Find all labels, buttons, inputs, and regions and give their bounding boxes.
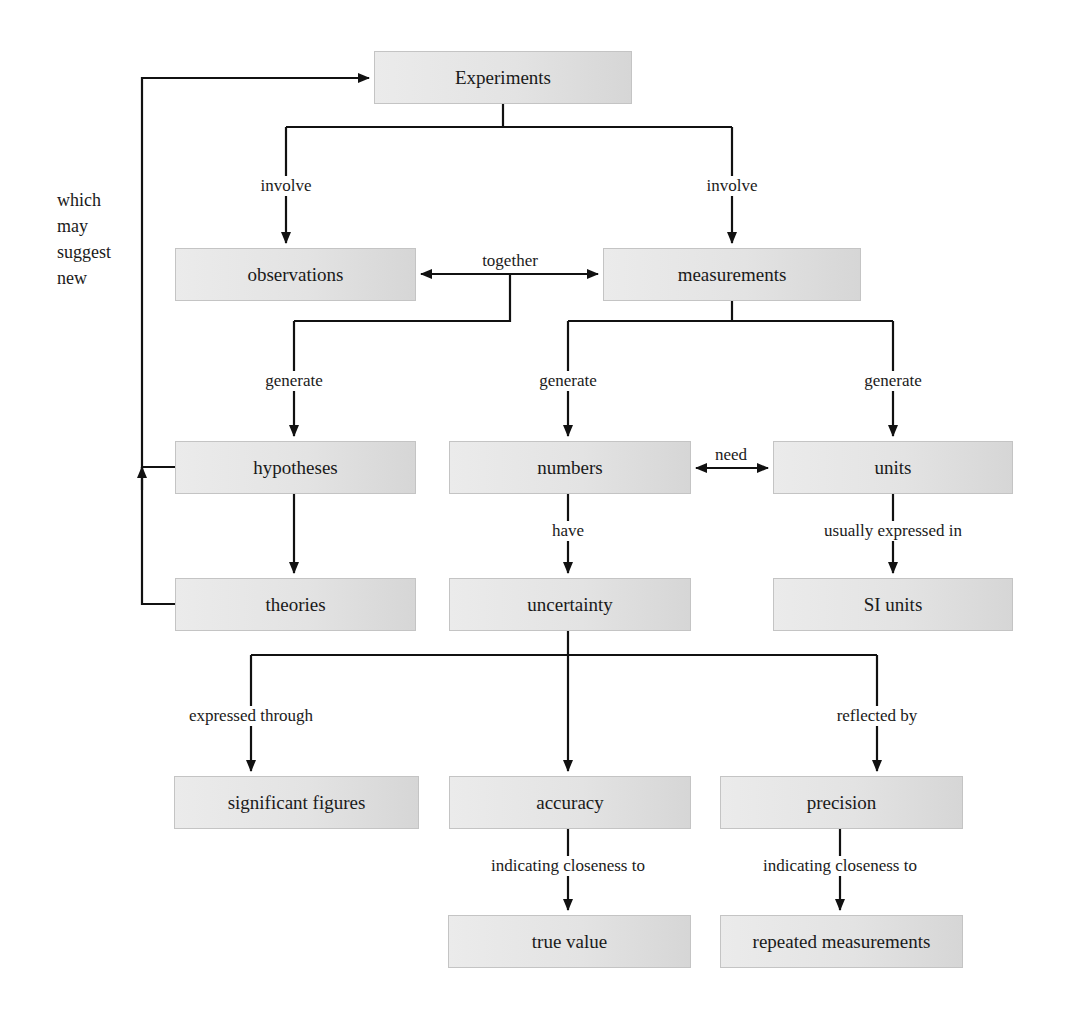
edge-label-generate-units: generate bbox=[861, 371, 925, 391]
edge-label-together: together bbox=[479, 251, 541, 271]
node-label: hypotheses bbox=[253, 457, 337, 479]
edge-label-have: have bbox=[549, 521, 587, 541]
edge-label-usually-expressed-in: usually expressed in bbox=[821, 521, 965, 541]
edge-label-expressed-through: expressed through bbox=[186, 706, 316, 726]
node-uncertainty: uncertainty bbox=[449, 578, 691, 631]
node-precision: precision bbox=[720, 776, 963, 829]
node-label: accuracy bbox=[536, 792, 604, 814]
node-label: repeated measurements bbox=[753, 931, 931, 953]
node-accuracy: accuracy bbox=[449, 776, 691, 829]
edge-label-involve-measurements: involve bbox=[704, 176, 761, 196]
edge-label-generate-numbers: generate bbox=[536, 371, 600, 391]
node-label: significant figures bbox=[228, 792, 366, 814]
node-theories: theories bbox=[175, 578, 416, 631]
node-label: Experiments bbox=[455, 67, 551, 89]
node-repeated-measurements: repeated measurements bbox=[720, 915, 963, 968]
edge-label-need: need bbox=[712, 445, 750, 465]
node-label: measurements bbox=[678, 264, 787, 286]
node-hypotheses: hypotheses bbox=[175, 441, 416, 494]
feedback-label-line: may bbox=[57, 213, 111, 239]
feedback-label: which may suggest new bbox=[57, 187, 111, 291]
edge-label-reflected-by: reflected by bbox=[834, 706, 921, 726]
node-label: numbers bbox=[537, 457, 602, 479]
node-measurements: measurements bbox=[603, 248, 861, 301]
node-label: SI units bbox=[864, 594, 923, 616]
node-label: units bbox=[875, 457, 912, 479]
node-label: theories bbox=[265, 594, 325, 616]
feedback-label-line: new bbox=[57, 265, 111, 291]
node-true-value: true value bbox=[448, 915, 691, 968]
node-label: true value bbox=[532, 931, 607, 953]
node-numbers: numbers bbox=[449, 441, 691, 494]
edge-label-generate-hypotheses: generate bbox=[262, 371, 326, 391]
node-label: observations bbox=[247, 264, 343, 286]
feedback-label-line: which bbox=[57, 187, 111, 213]
node-si-units: SI units bbox=[773, 578, 1013, 631]
node-label: uncertainty bbox=[527, 594, 612, 616]
edge-label-involve-observations: involve bbox=[258, 176, 315, 196]
node-significant-figures: significant figures bbox=[174, 776, 419, 829]
node-units: units bbox=[773, 441, 1013, 494]
edge-label-indicating-closeness-repeated: indicating closeness to bbox=[760, 856, 920, 876]
node-experiments: Experiments bbox=[374, 51, 632, 104]
feedback-label-line: suggest bbox=[57, 239, 111, 265]
node-observations: observations bbox=[175, 248, 416, 301]
concept-map: Experiments observations measurements hy… bbox=[0, 0, 1066, 1018]
node-label: precision bbox=[807, 792, 877, 814]
edge-label-indicating-closeness-true-value: indicating closeness to bbox=[488, 856, 648, 876]
